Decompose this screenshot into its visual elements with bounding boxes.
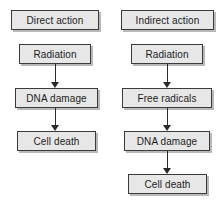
- node-label: Direct action: [27, 15, 84, 26]
- node-indirect-action-header: Indirect action: [121, 10, 214, 30]
- node-label: Cell death: [144, 179, 190, 190]
- flow-column-indirect-action: Indirect action Radiation Free radicals …: [110, 0, 218, 205]
- diagram-canvas: Direct action Radiation DNA damage Cell …: [0, 0, 218, 205]
- arrow-shaft: [167, 151, 168, 168]
- arrow-radiation-to-dna-damage: [51, 64, 60, 88]
- arrow-radiation-to-free-radicals: [163, 64, 172, 88]
- node-label: Cell death: [33, 136, 79, 147]
- node-indirect-free-radicals: Free radicals: [122, 88, 212, 108]
- arrow-shaft: [167, 108, 168, 125]
- node-direct-dna-damage: DNA damage: [15, 88, 98, 108]
- node-label: Free radicals: [137, 93, 196, 104]
- node-direct-cell-death: Cell death: [17, 131, 96, 151]
- arrow-shaft: [55, 64, 56, 82]
- arrow-dna-damage-to-cell-death: [51, 108, 60, 131]
- node-label: Radiation: [145, 49, 188, 60]
- node-direct-radiation: Radiation: [19, 44, 91, 64]
- arrow-shaft: [55, 108, 56, 125]
- node-label: Indirect action: [136, 15, 200, 26]
- node-direct-action-header: Direct action: [11, 10, 99, 30]
- node-label: DNA damage: [137, 136, 197, 147]
- node-label: Radiation: [33, 49, 76, 60]
- node-indirect-dna-damage: DNA damage: [124, 131, 210, 151]
- arrow-dna-damage-to-cell-death: [163, 151, 172, 174]
- node-indirect-radiation: Radiation: [131, 44, 203, 64]
- flow-column-direct-action: Direct action Radiation DNA damage Cell …: [0, 0, 108, 205]
- arrow-shaft: [167, 64, 168, 82]
- node-label: DNA damage: [26, 93, 86, 104]
- arrow-free-radicals-to-dna-damage: [163, 108, 172, 131]
- node-indirect-cell-death: Cell death: [128, 174, 207, 194]
